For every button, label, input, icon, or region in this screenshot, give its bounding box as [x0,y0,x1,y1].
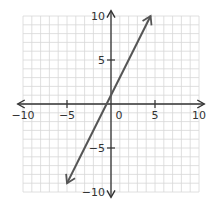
y-tick-label: −5 [89,142,105,155]
plotted-line [67,16,151,183]
y-tick-label: 5 [98,54,105,67]
axes [18,11,205,198]
y-tick-label: −10 [82,186,105,199]
coordinate-plane: −10−50510−10−5510 [0,0,216,208]
series-line [67,16,151,183]
x-tick-label: 5 [152,109,159,122]
x-tick-label: −10 [11,109,34,122]
x-tick-label: 10 [192,109,206,122]
y-tick-label: 10 [91,10,105,23]
x-tick-label: 0 [116,109,123,122]
x-tick-label: −5 [59,109,75,122]
